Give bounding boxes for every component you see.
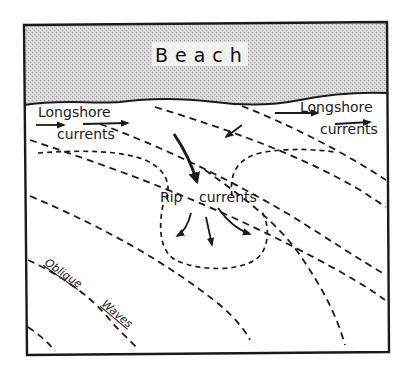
- rip-circulation-lines: [38, 149, 335, 268]
- longshore-left-label-2: currents: [57, 126, 115, 142]
- rip-dispersion-arrows: [177, 208, 250, 245]
- rip-current-diagram: Beach Longshore currents L: [0, 0, 405, 383]
- rip-main-arrow: [174, 134, 197, 182]
- longshore-right-label-1: Longshore: [300, 99, 373, 115]
- waves-label: Waves: [99, 297, 135, 330]
- rip-currents-label: currents: [199, 189, 257, 205]
- longshore-right-label-2: currents: [320, 121, 378, 137]
- longshore-left-label-1: Longshore: [38, 104, 111, 120]
- beach-label: Beach: [155, 44, 249, 66]
- oblique-wave-lines: [28, 106, 386, 351]
- oblique-label: Oblique: [42, 256, 84, 291]
- rip-label: Rip: [160, 189, 183, 205]
- longshore-arrows-left: [36, 123, 128, 125]
